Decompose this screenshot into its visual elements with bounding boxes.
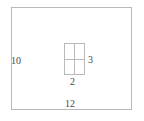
outer-rectangle-left-label: 10 <box>11 56 21 66</box>
inner-rectangle-horizontal-divider <box>64 59 85 60</box>
inner-rectangle-bottom-label: 2 <box>70 77 75 87</box>
outer-rectangle-bottom-label: 12 <box>65 99 75 109</box>
inner-rectangle-right-label: 3 <box>88 55 93 65</box>
geometry-figure: 10 12 3 2 <box>0 0 144 121</box>
